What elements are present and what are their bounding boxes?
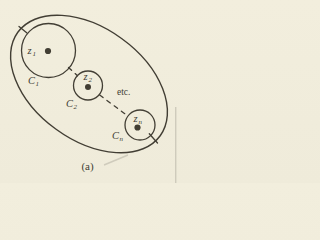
point-z1-dot [45, 48, 51, 54]
label-c2-sub: 2 [74, 103, 78, 111]
figure-caption: (a) [81, 160, 94, 173]
label-cn: Cn [112, 130, 124, 144]
label-z1-base: z [27, 45, 32, 56]
label-z2: z2 [83, 71, 93, 85]
tick-cn-to-ellipse [149, 134, 157, 143]
label-zn-base: z [133, 113, 138, 124]
label-z2-sub: 2 [89, 76, 93, 84]
page-edge-artifact-diagonal [104, 155, 128, 165]
label-c1-sub: 1 [36, 80, 40, 88]
dashed-connector-c1-c2 [69, 68, 78, 76]
label-cn-sub: n [120, 135, 124, 143]
label-c1: C1 [28, 75, 39, 89]
region-boundary-ellipse [0, 0, 179, 181]
label-zn-sub: n [139, 118, 143, 126]
etc-annotation: etc. [117, 87, 130, 97]
figure-canvas: z1 z2 zn C1 C2 Cn etc. (a) [0, 0, 179, 183]
label-zn: zn [133, 113, 143, 127]
label-z1: z1 [27, 45, 37, 59]
figure-a-diagram: z1 z2 zn C1 C2 Cn etc. (a) [0, 0, 179, 183]
dashed-connector-c2-cn [100, 95, 128, 116]
label-z1-sub: 1 [33, 50, 37, 58]
label-c2: C2 [66, 98, 78, 112]
label-z2-base: z [83, 71, 88, 82]
point-z2-dot [85, 84, 91, 90]
